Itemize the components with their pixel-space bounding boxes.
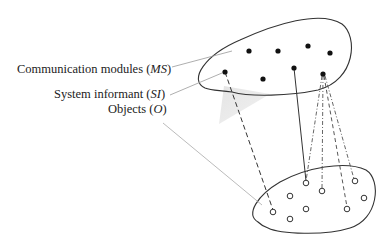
solid-mapping-line <box>294 68 306 181</box>
mapping-line-2 <box>322 76 323 189</box>
top-region-outline <box>198 18 351 95</box>
bottom-region-outline <box>253 166 376 234</box>
mapping-line-3 <box>324 76 347 207</box>
objects-abbr: O <box>153 102 162 116</box>
communication-module-dots <box>222 43 332 81</box>
objects-label-text: Objects ( <box>108 102 153 116</box>
ms-leader-line <box>172 51 232 67</box>
si-close: ) <box>161 87 165 101</box>
ms-close: ) <box>167 62 171 76</box>
objects-close: ) <box>163 102 167 116</box>
mapping-line-4 <box>325 76 354 179</box>
diagram-canvas: Communication modules (MS) System inform… <box>0 0 392 241</box>
diagram-svg <box>0 0 392 241</box>
object-circles <box>270 178 367 222</box>
ms-abbr: MS <box>150 62 167 76</box>
communication-modules-label: Communication modules (MS) <box>17 62 171 76</box>
si-leader-line <box>170 73 222 95</box>
si-label-text: System informant ( <box>54 87 151 101</box>
ms-label-text: Communication modules ( <box>17 62 150 76</box>
objects-label: Objects (O) <box>108 102 167 116</box>
si-abbr: SI <box>151 87 161 101</box>
system-informant-label: System informant (SI) <box>54 87 165 101</box>
